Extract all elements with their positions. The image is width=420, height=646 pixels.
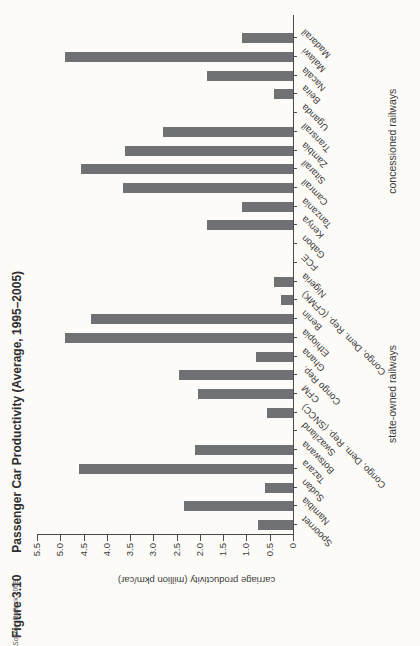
value-axis-tick (293, 535, 294, 541)
value-axis-line (37, 534, 293, 535)
bar (179, 370, 293, 380)
category-tick (294, 430, 297, 431)
source-note: Source: Bullock 2009. (12, 426, 19, 646)
category-tick (294, 393, 297, 394)
group-label: state-owned railways (386, 329, 398, 459)
value-axis-tick (270, 535, 271, 541)
bar (195, 445, 293, 455)
bar (274, 277, 293, 287)
category-tick (294, 187, 297, 188)
category-tick (294, 505, 297, 506)
category-tick (294, 262, 297, 263)
value-axis-tick (246, 535, 247, 541)
source-prefix: Source: (12, 622, 19, 646)
value-axis-tick (37, 535, 38, 541)
scanned-report-page: Figure 3.10Passenger Car Productivity (A… (0, 0, 420, 646)
value-axis-tick (200, 535, 201, 541)
category-tick (294, 374, 297, 375)
category-tick (294, 468, 297, 469)
value-axis-tick (130, 535, 131, 541)
category-tick (294, 56, 297, 57)
category-tick (294, 356, 297, 357)
value-tick-label: 0.5 (264, 543, 275, 573)
bar (163, 127, 293, 137)
bar (65, 333, 293, 343)
category-tick (294, 206, 297, 207)
value-tick-label: 5.5 (31, 543, 42, 573)
value-tick-label: 2.0 (194, 543, 205, 573)
value-tick-label: 5.0 (54, 543, 65, 573)
value-tick-label: 0 (287, 543, 298, 573)
bar (274, 89, 293, 99)
category-tick (294, 412, 297, 413)
source-text: Bullock 2009. (12, 578, 19, 620)
rotated-figure-canvas: Figure 3.10Passenger Car Productivity (A… (0, 0, 420, 646)
value-tick-label: 3.5 (124, 543, 135, 573)
category-tick (294, 150, 297, 151)
value-axis-tick (84, 535, 85, 541)
value-axis-tick (107, 535, 108, 541)
value-axis-tick (223, 535, 224, 541)
bar (242, 202, 293, 212)
bar (207, 71, 293, 81)
value-axis-tick (177, 535, 178, 541)
value-axis-tick (60, 535, 61, 541)
bar (184, 501, 293, 511)
bar (207, 220, 293, 230)
value-tick-label: 4.0 (101, 543, 112, 573)
bar (79, 464, 293, 474)
value-tick-label: 1.5 (217, 543, 228, 573)
category-tick (294, 75, 297, 76)
category-tick (294, 131, 297, 132)
value-tick-label: 1.0 (240, 543, 251, 573)
category-tick (294, 487, 297, 488)
value-tick-label: 3.0 (147, 543, 158, 573)
bar (258, 520, 293, 530)
category-tick (294, 243, 297, 244)
bar (265, 483, 293, 493)
value-tick-label: 4.5 (78, 543, 89, 573)
category-tick (294, 93, 297, 94)
bar (256, 352, 293, 362)
category-tick (294, 299, 297, 300)
bar (91, 314, 293, 324)
bar (267, 408, 293, 418)
bar (65, 52, 293, 62)
category-tick (294, 37, 297, 38)
value-axis-title: carriage productivity (million pkm/car) (47, 575, 347, 586)
bar-chart: 00.51.01.52.02.53.03.54.04.55.05.5carria… (0, 0, 420, 646)
bar (81, 164, 293, 174)
bar (281, 295, 293, 305)
category-tick (294, 281, 297, 282)
category-tick (294, 224, 297, 225)
category-tick (294, 449, 297, 450)
bar (198, 389, 293, 399)
category-tick (294, 168, 297, 169)
value-axis-tick (153, 535, 154, 541)
category-tick (294, 112, 297, 113)
category-tick (294, 318, 297, 319)
value-tick-label: 2.5 (171, 543, 182, 573)
bar (123, 183, 293, 193)
group-label: concessioned railways (386, 76, 398, 206)
bar (125, 146, 293, 156)
category-tick (294, 337, 297, 338)
bar (242, 33, 293, 43)
category-tick (294, 524, 297, 525)
